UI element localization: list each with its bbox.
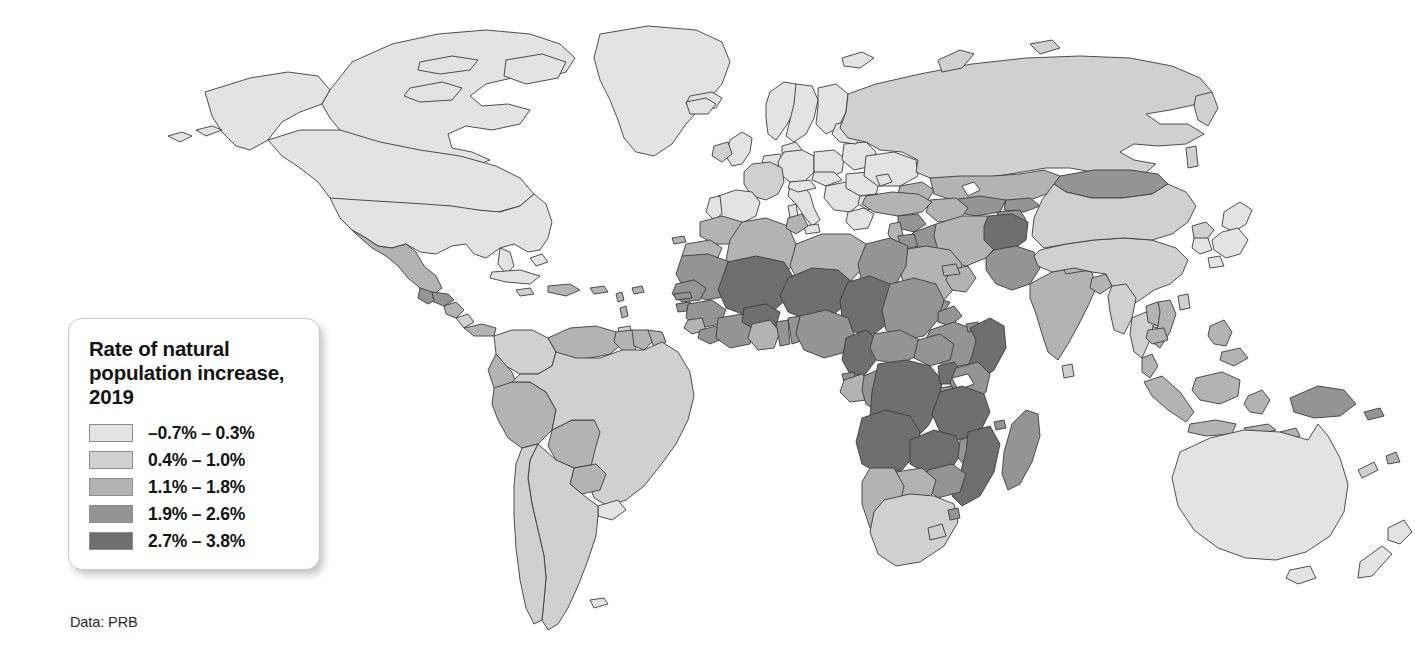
region-taiwan	[1178, 294, 1190, 310]
region-jamaica	[516, 288, 534, 296]
legend-row: –0.7% – 0.3%	[89, 420, 301, 447]
legend-swatch-class-5	[89, 532, 133, 550]
region-comoros	[994, 420, 1006, 430]
map-legend: Rate of natural population increase, 201…	[68, 318, 320, 570]
region-sri-lanka	[1062, 364, 1074, 378]
legend-label-class-4: 1.9% – 2.6%	[148, 504, 245, 525]
region-canary-islands	[672, 236, 686, 244]
legend-swatch-class-4	[89, 505, 133, 523]
region-sakhalin	[1186, 146, 1198, 168]
legend-label-class-2: 0.4% – 1.0%	[148, 450, 245, 471]
legend-row: 1.9% – 2.6%	[89, 501, 301, 528]
source-note: Data: PRB	[70, 614, 138, 630]
legend-swatch-class-3	[89, 478, 133, 496]
legend-label-class-3: 1.1% – 1.8%	[148, 477, 245, 498]
legend-row: 1.1% – 1.8%	[89, 474, 301, 501]
legend-label-class-1: –0.7% – 0.3%	[148, 423, 255, 444]
legend-label-class-5: 2.7% – 3.8%	[148, 531, 245, 552]
region-lesser-antilles-2	[620, 306, 628, 318]
region-cape-verde	[632, 286, 644, 294]
world-map-figure: Rate of natural population increase, 201…	[0, 0, 1415, 670]
legend-row: 0.4% – 1.0%	[89, 447, 301, 474]
region-puerto-rico	[590, 286, 608, 294]
legend-swatch-class-2	[89, 451, 133, 469]
legend-title: Rate of natural population increase, 201…	[89, 337, 301, 409]
region-lesser-antilles	[616, 292, 624, 302]
region-eswatini	[948, 508, 960, 520]
legend-swatch-class-1	[89, 424, 133, 442]
legend-row: 2.7% – 3.8%	[89, 528, 301, 555]
